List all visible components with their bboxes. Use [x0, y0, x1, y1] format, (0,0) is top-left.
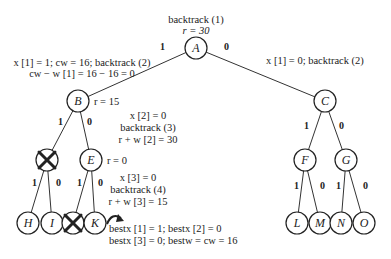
edge-label-F-M: 0: [320, 180, 325, 191]
edge-label-A-B: 1: [160, 41, 165, 52]
node-D-pruned: [36, 149, 58, 171]
node-M: M: [309, 212, 331, 234]
edge-label-B-D: 1: [58, 116, 63, 127]
edge-label-B-E: 0: [87, 116, 92, 127]
edge-label-G-N: 1: [336, 180, 341, 191]
annotation-right-1: x [1] = 0; backtrack (2): [266, 55, 364, 67]
annotation-best-1: bestx [1] = 1; bestx [2] = 0: [109, 223, 221, 234]
annotation-b-r: r = 15: [94, 96, 119, 107]
node-B: B: [67, 90, 89, 112]
annotation-mid-3: r + w [2] = 30: [119, 134, 178, 145]
node-E: E: [80, 149, 102, 171]
node-L-label: L: [293, 216, 301, 230]
node-K-label: K: [90, 216, 100, 230]
node-N: N: [330, 212, 352, 234]
annotation-low-2: backtrack (4): [110, 184, 166, 196]
node-O-label: O: [360, 216, 369, 230]
edge-label-F-L: 1: [294, 180, 299, 191]
annotation-mid-2: backtrack (3): [120, 122, 176, 134]
edge-label-A-C: 0: [224, 41, 229, 52]
node-O: O: [353, 212, 375, 234]
backtracking-tree-diagram: 1 0 1 0 1 0 1 0 1 0 1 0 1 0 A B C E H I: [0, 0, 391, 259]
node-K: K: [84, 212, 106, 234]
node-F-label: F: [300, 153, 309, 167]
edge-label-D-I: 0: [56, 177, 61, 188]
edge-label-C-F: 1: [304, 120, 309, 131]
annotation-low-1: x [3] = 0: [120, 172, 157, 183]
edge-label-E-K: 0: [98, 177, 103, 188]
node-J-pruned: [62, 212, 84, 234]
node-A: A: [185, 37, 207, 59]
node-B-label: B: [74, 94, 82, 108]
annotation-low-3: r + w [3] = 15: [109, 196, 168, 207]
node-C-label: C: [321, 94, 330, 108]
node-C: C: [314, 90, 336, 112]
edge-label-C-G: 0: [339, 120, 344, 131]
annotation-left-2: cw − w [1] = 16 − 16 = 0: [29, 68, 135, 79]
node-E-label: E: [86, 153, 95, 167]
edge-label-E-J: 1: [77, 177, 82, 188]
annotation-best-2: bestx [3] = 0; bestw = cw = 16: [109, 235, 238, 246]
node-L: L: [286, 212, 308, 234]
annotation-r-30: r = 30: [183, 25, 211, 36]
edge-label-D-H: 1: [32, 177, 37, 188]
node-H: H: [17, 212, 39, 234]
node-G: G: [335, 149, 357, 171]
node-I: I: [41, 212, 63, 234]
annotation-mid-1: x [2] = 0: [130, 110, 167, 121]
node-A-label: A: [191, 41, 200, 55]
annotation-e-r: r = 0: [107, 155, 127, 166]
node-N-label: N: [336, 216, 346, 230]
node-G-label: G: [342, 153, 351, 167]
node-F: F: [294, 149, 316, 171]
node-M-label: M: [314, 216, 326, 230]
edge-label-G-O: 0: [363, 180, 368, 191]
node-H-label: H: [23, 216, 34, 230]
